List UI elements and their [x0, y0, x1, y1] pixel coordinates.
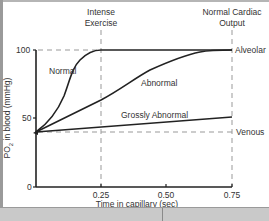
- intense-exercise-label-line1: Intense: [87, 8, 115, 17]
- alveolar-label: Alveolar: [235, 46, 266, 55]
- y-axis-title-subscript: 2: [8, 143, 14, 146]
- normal-curve-label: Normal: [49, 67, 76, 76]
- grossly-abnormal-curve-label: Grossly Abnormal: [121, 111, 188, 120]
- x-tick-label-075: 0.75: [224, 191, 241, 200]
- y-tick-label-0: 0: [27, 183, 32, 192]
- y-tick-label-100: 100: [16, 46, 30, 55]
- y-axis-title-main: PO: [2, 146, 12, 158]
- normal-cardiac-output-label-line2: Output: [219, 19, 245, 28]
- y-axis-title-rest: in blood (mmHg): [2, 78, 12, 143]
- bottom-bar-divider: [162, 208, 163, 221]
- abnormal-curve-label: Abnormal: [141, 79, 177, 88]
- y-axis-title: PO2 in blood (mmHg): [2, 78, 14, 159]
- bottom-status-bar: [0, 207, 269, 221]
- venous-label: Venous: [236, 128, 264, 137]
- normal-cardiac-output-label-line1: Normal Cardiac: [202, 8, 261, 17]
- y-tick-label-50: 50: [22, 114, 31, 123]
- intense-exercise-label-line2: Exercise: [85, 19, 118, 28]
